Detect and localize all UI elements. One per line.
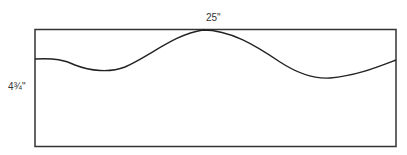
outer-rectangle: [35, 30, 396, 147]
pattern-diagram: [0, 0, 407, 155]
wave-curve: [35, 30, 396, 78]
